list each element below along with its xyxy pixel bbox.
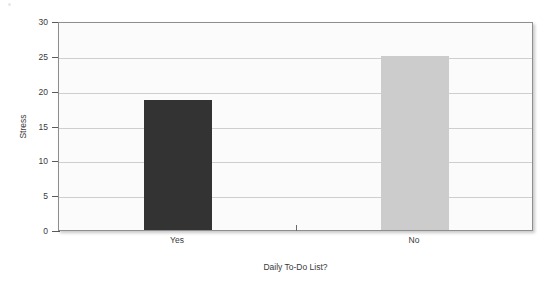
y-axis-tick-label-25: 25 (8, 53, 48, 62)
gridline-10 (59, 162, 532, 163)
gridline-15 (59, 128, 532, 129)
y-axis-tick-label-20: 20 (8, 88, 48, 97)
chart-screenshot: Stress 051015202530 YesNo Daily To-Do Li… (0, 0, 555, 289)
plot-inner (59, 23, 532, 230)
gridline-5 (59, 197, 532, 198)
artifact-speck (8, 3, 11, 6)
y-axis-tick-label-10: 10 (8, 157, 48, 166)
y-axis-tick-label-0: 0 (8, 227, 48, 236)
x-axis-title: Daily To-Do List? (58, 262, 533, 272)
y-axis-tick-label-5: 5 (8, 192, 48, 201)
bar-no (381, 56, 449, 230)
bar-yes (144, 100, 212, 230)
y-axis-tick-0 (52, 231, 60, 232)
x-axis-tick-label-yes: Yes (117, 236, 237, 245)
plot-area (58, 22, 533, 231)
gridline-25 (59, 58, 532, 59)
x-axis-tick-label-no: No (354, 236, 474, 245)
gridline-20 (59, 93, 532, 94)
y-axis-tick-label-30: 30 (8, 18, 48, 27)
y-axis-tick-label-15: 15 (8, 123, 48, 132)
x-axis-category-separator (296, 225, 297, 231)
